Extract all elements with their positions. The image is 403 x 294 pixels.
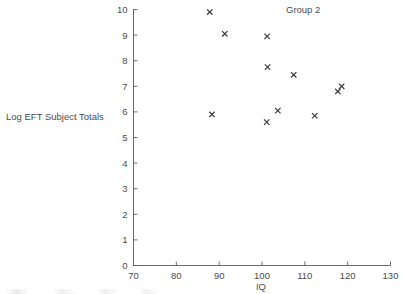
y-axis-label: Log EFT Subject Totals xyxy=(6,111,104,122)
x-axis-tick-labels: 708090100110120130 xyxy=(128,270,398,281)
y-tick-label: 7 xyxy=(122,81,127,92)
y-axis-tick-labels: 012345678910 xyxy=(117,4,128,271)
x-tick-label: 70 xyxy=(128,270,139,281)
data-point-marker xyxy=(275,108,280,113)
x-axis-ticks xyxy=(134,262,391,266)
data-point-marker xyxy=(265,64,270,69)
y-tick-label: 3 xyxy=(122,183,127,194)
y-tick-label: 0 xyxy=(122,260,127,271)
data-point-markers xyxy=(207,9,344,124)
y-tick-label: 1 xyxy=(122,234,127,245)
y-tick-label: 9 xyxy=(122,30,127,41)
x-tick-label: 80 xyxy=(171,270,182,281)
data-point-marker xyxy=(312,113,317,118)
y-tick-label: 8 xyxy=(122,55,127,66)
x-tick-label: 130 xyxy=(383,270,399,281)
data-point-marker xyxy=(209,112,214,117)
data-point-marker xyxy=(264,34,269,39)
data-point-marker xyxy=(222,31,227,36)
y-tick-label: 2 xyxy=(122,209,127,220)
data-point-marker xyxy=(335,89,340,94)
data-point-marker xyxy=(291,72,296,77)
y-tick-label: 10 xyxy=(117,4,128,15)
x-tick-label: 110 xyxy=(297,270,312,281)
x-tick-label: 90 xyxy=(214,270,225,281)
x-tick-label: 100 xyxy=(254,270,270,281)
y-tick-label: 5 xyxy=(122,132,127,143)
plot-canvas: 012345678910 708090100110120130 Group 2 … xyxy=(0,0,403,294)
data-point-marker xyxy=(207,9,212,14)
scatter-plot-figure: 012345678910 708090100110120130 Group 2 … xyxy=(0,0,403,294)
x-tick-label: 120 xyxy=(340,270,356,281)
y-axis-ticks xyxy=(134,10,138,266)
data-point-marker xyxy=(264,119,269,124)
x-axis-label: IQ xyxy=(256,281,266,292)
data-point-marker xyxy=(339,84,344,89)
y-tick-label: 6 xyxy=(122,106,127,117)
chart-title: Group 2 xyxy=(286,4,320,15)
y-tick-label: 4 xyxy=(122,158,127,169)
